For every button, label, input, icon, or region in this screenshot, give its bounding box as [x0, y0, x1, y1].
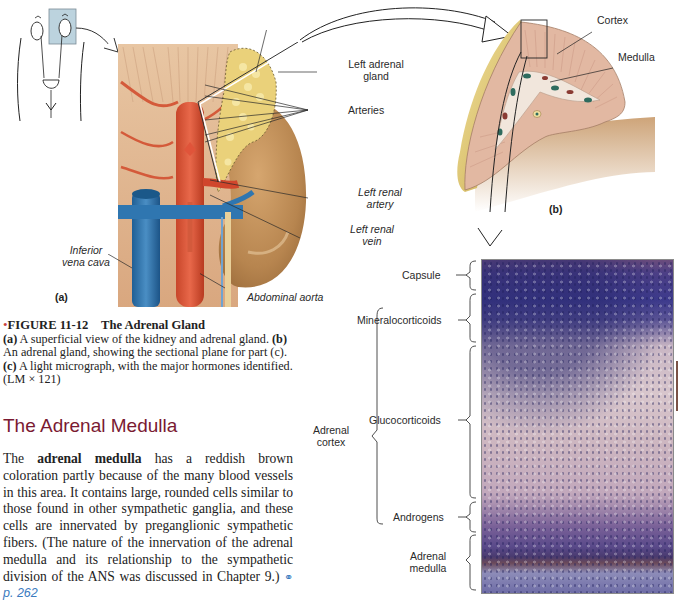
leader-vena-cava	[108, 254, 138, 274]
link-icon: ⚭	[284, 571, 293, 583]
body-prefix: The	[3, 451, 37, 466]
label-androgens: Androgens	[393, 511, 444, 523]
label-medulla: Medulla	[618, 51, 655, 63]
section-body: The adrenal medulla has a reddish brown …	[3, 451, 293, 602]
caption-text-c: A light micrograph, with the major hormo…	[3, 359, 293, 387]
label-adrenal-cortex: Adrenal cortex	[296, 424, 366, 448]
body-term-adrenal-medulla: adrenal medulla	[37, 451, 141, 466]
body-outline-thumbnail	[0, 0, 120, 130]
label-left-renal-vein: Left renal vein	[342, 223, 402, 247]
label-capsule: Capsule	[402, 269, 441, 281]
figure-number: FIGURE 11-12	[8, 318, 89, 332]
caption-text-a: A superficial view of the kidney and adr…	[17, 332, 272, 346]
panel-a-tag: (a)	[55, 291, 68, 303]
micrograph-texture-highlight	[482, 260, 673, 593]
label-glucocorticoids: Glucocorticoids	[369, 414, 441, 426]
label-abdominal-aorta: Abdominal aorta	[247, 291, 323, 303]
panel-a-leader-lines	[200, 30, 330, 300]
caption-tag-c: (c)	[3, 359, 17, 373]
caption-tag-b: (b)	[272, 332, 287, 346]
section-title: The Adrenal Medulla	[3, 415, 177, 437]
label-mineralocorticoids: Mineralocorticoids	[357, 314, 442, 326]
label-arteries: Arteries	[348, 104, 384, 116]
figure-caption: •FIGURE 11-12 The Adrenal Gland (a) A su…	[3, 318, 293, 387]
panel-b-tag: (b)	[549, 203, 562, 215]
label-left-adrenal-gland: Left adrenal gland	[341, 58, 411, 82]
figure-title: The Adrenal Gland	[101, 318, 205, 332]
page-cross-reference-link[interactable]: p. 262	[3, 586, 38, 600]
zoom-arrow-a	[74, 22, 120, 56]
caption-tag-a: (a)	[3, 332, 17, 346]
zoom-arrow-c	[470, 208, 520, 252]
label-cortex: Cortex	[597, 14, 628, 26]
label-inferior-vena-cava: Inferior vena cava	[56, 244, 116, 268]
label-adrenal-medulla: Adrenal medulla	[393, 550, 463, 574]
caption-text-b: An adrenal gland, showing the sectional …	[3, 345, 287, 359]
body-text: has a reddish brown coloration partly be…	[3, 451, 293, 584]
light-micrograph	[481, 259, 674, 594]
label-left-renal-artery: Left renal artery	[350, 186, 410, 210]
